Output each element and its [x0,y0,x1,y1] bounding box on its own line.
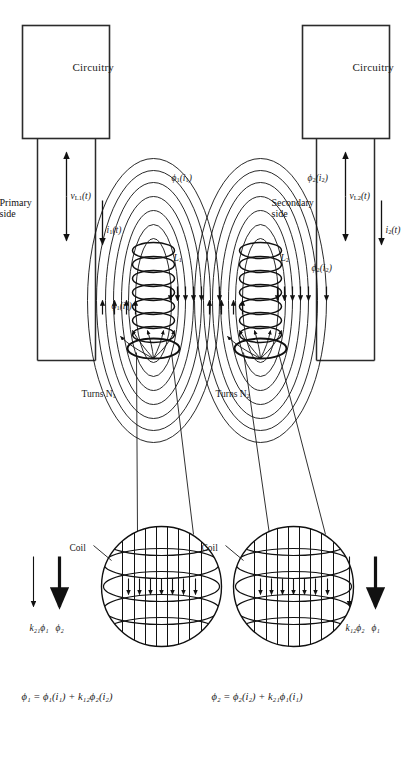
primary-inductor-label: L1 [173,252,182,263]
secondary-side-line1: Secondary [271,196,313,207]
secondary-side-line2: side [271,207,313,218]
figure-svg [0,0,411,758]
phi2-inner-label: ϕ2(i2) [311,262,331,273]
primary-voltage-sub: L1 [74,194,81,201]
secondary-turns-label: Turns N2 [215,388,249,399]
primary-side-line1: Primary [0,196,31,207]
primary-voltage-arg: (t) [81,190,90,200]
primary-coil-callout: Coil [69,542,85,553]
secondary-side-label: Secondary side [271,196,313,218]
phi2-inner-arg: (i [319,262,325,272]
phi1-outer-label: ϕ1(i1) [171,172,191,183]
primary-circuitry-box [22,25,109,138]
legend-top-thick-label: ϕ₂ [55,622,63,633]
primary-flux-equation: ϕ₁ = ϕ₁(i₁) + k₁₂ϕ₂(i₂) [21,690,112,702]
secondary-inductor-text: L [280,252,285,262]
phi1-inner-close: ) [128,300,131,310]
phi2-outer-label: ϕ2(i2) [307,172,327,183]
secondary-turns-text: Turns N [215,388,246,398]
primary-current-label: i1(t) [106,224,121,235]
legend-top-thin-label: k₂₁ϕ₁ [29,622,48,633]
primary-turns-sub: 1 [112,392,115,399]
phi2-outer-sym: ϕ [307,172,312,182]
secondary-turns-sub: 2 [246,392,249,399]
primary-inductor-text: L [173,252,178,262]
phi2-outer-close: ) [324,172,327,182]
primary-side-line2: side [0,207,31,218]
legend-bottom-thin-label: k₁₂ϕ₂ [345,622,364,633]
phi1-inner-sym: ϕ [111,300,116,310]
secondary-inductor-label: L2 [280,252,289,263]
primary-current-arg: (t) [112,224,121,234]
secondary-circuitry-box [302,25,389,138]
phi1-inner-label: ϕ1(i1) [111,300,131,311]
primary-turns-label: Turns N1 [81,388,115,399]
legend-top-arrows [33,556,59,606]
phi1-outer-arg: (i [179,172,185,182]
primary-inductor-sub: 1 [178,256,181,263]
legend-bottom-thick-label: ϕ₁ [371,622,379,633]
secondary-current-arg: (t) [391,224,400,234]
secondary-inductor-sub: 2 [285,256,288,263]
secondary-coil-callout: Coil [201,542,217,553]
secondary-voltage-sub: L2 [353,194,360,201]
primary-side-label: Primary side [0,196,31,218]
phi2-inner-close: ) [328,262,331,272]
secondary-current-label: i2(t) [385,224,400,235]
phi1-outer-close: ) [188,172,191,182]
phi1-outer-sym: ϕ [171,172,176,182]
diagram-canvas: Circuitry Circuitry Secondary side Prima… [0,0,411,758]
secondary-magnified-detail [225,524,353,650]
secondary-circuitry-label: Circuitry [352,60,394,73]
primary-current-sub: 1 [109,228,112,235]
figure-rotated-group: Circuitry Circuitry Secondary side Prima… [0,0,411,758]
primary-circuitry-label: Circuitry [72,60,114,73]
phi2-outer-arg: (i [315,172,321,182]
phi2-inner-sym: ϕ [311,262,316,272]
phi1-inner-arg: (i [119,300,125,310]
secondary-current-sub: 2 [388,228,391,235]
secondary-voltage-label: vL2(t) [349,190,369,201]
primary-turns-text: Turns N [81,388,112,398]
primary-voltage-label: vL1(t) [70,190,90,201]
conductor-lines [37,138,374,360]
secondary-flux-equation: ϕ₂ = ϕ₂(i₂) + k₂₁ϕ₁(i₁) [211,690,302,702]
secondary-voltage-arg: (t) [360,190,369,200]
